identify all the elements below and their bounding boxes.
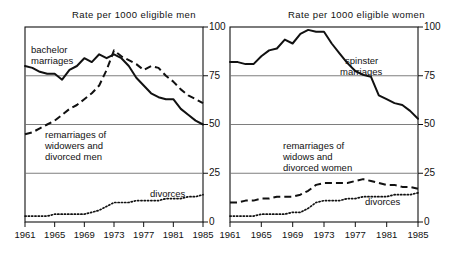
annotation-divorces-women: divorces bbox=[365, 196, 400, 208]
annotation-remarriages-men-line1: remarriages of bbox=[45, 129, 106, 141]
xtick-label-men-1969: 1969 bbox=[69, 229, 99, 240]
annotation-remarriages-men-line2: widowers and bbox=[45, 140, 103, 152]
xtick-label-women-1985: 1985 bbox=[403, 229, 433, 240]
ytick-label-women-0: 0 bbox=[424, 216, 430, 227]
xtick-label-men-1973: 1973 bbox=[99, 229, 129, 240]
ytick-label-men-25: 25 bbox=[209, 167, 220, 178]
annotation-bachelor-marriages-line2: marriages bbox=[31, 55, 73, 67]
ytick-label-women-25: 25 bbox=[424, 167, 435, 178]
xtick-label-men-1977: 1977 bbox=[129, 229, 159, 240]
xtick-label-men-1961: 1961 bbox=[10, 229, 40, 240]
xtick-label-men-1981: 1981 bbox=[158, 229, 188, 240]
annotation-remarriages-men-line3: divorced men bbox=[45, 151, 102, 163]
chart-figure: Rate per 1000 eligible men Rate per 1000… bbox=[0, 0, 460, 254]
ytick-label-men-0: 0 bbox=[209, 216, 215, 227]
annotation-remarriages-women-line1: remarriages of bbox=[283, 140, 344, 152]
ytick-label-women-100: 100 bbox=[424, 21, 441, 32]
ytick-label-women-75: 75 bbox=[424, 70, 435, 81]
annotation-remarriages-women-line3: divorced women bbox=[283, 162, 352, 174]
ytick-label-men-75: 75 bbox=[209, 70, 220, 81]
ytick-label-men-50: 50 bbox=[209, 118, 220, 129]
annotation-remarriages-women-line2: widows and bbox=[283, 151, 333, 163]
xtick-label-women-1981: 1981 bbox=[372, 229, 402, 240]
annotation-spinster-marriages-line2: marriages bbox=[340, 66, 382, 78]
xtick-label-women-1969: 1969 bbox=[278, 229, 308, 240]
annotation-spinster-marriages-line1: spinster bbox=[345, 55, 378, 67]
xtick-label-women-1965: 1965 bbox=[246, 229, 276, 240]
xtick-label-women-1973: 1973 bbox=[309, 229, 339, 240]
annotation-divorces-men: divorces bbox=[150, 188, 185, 200]
xtick-label-women-1961: 1961 bbox=[215, 229, 245, 240]
ytick-label-women-50: 50 bbox=[424, 118, 435, 129]
series-spinster-marriages bbox=[230, 30, 418, 119]
xtick-label-women-1977: 1977 bbox=[340, 229, 370, 240]
annotation-bachelor-marriages-line1: bachelor bbox=[31, 44, 67, 56]
chart-canvas bbox=[0, 0, 460, 254]
xtick-label-men-1985: 1985 bbox=[188, 229, 218, 240]
ytick-label-men-100: 100 bbox=[209, 21, 226, 32]
xtick-label-men-1965: 1965 bbox=[40, 229, 70, 240]
